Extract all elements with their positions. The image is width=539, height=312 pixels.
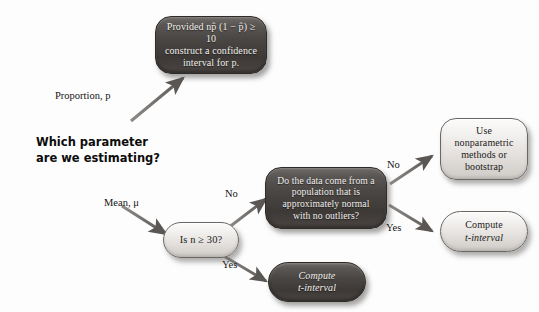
root-question-line1: Which parameter — [36, 135, 148, 149]
edge-label-normal-no: No — [387, 159, 400, 170]
node-proportion-line2: construct a confidence — [165, 45, 257, 56]
arrow-root-to-sample-size — [122, 206, 166, 234]
branch-label-proportion: Proportion, p — [55, 90, 110, 101]
node-nonparametric-line3: methods or — [461, 149, 507, 160]
node-t-bottom-line2: t-interval — [298, 282, 336, 293]
node-normality-line4: with no outliers? — [293, 210, 359, 221]
root-question: Which parameter are we estimating? — [36, 135, 186, 166]
edge-label-normal-yes: Yes — [386, 222, 401, 233]
node-normality-line3: approximately normal — [283, 198, 370, 209]
branch-label-mean: Mean, μ — [104, 197, 139, 208]
node-compute-t-interval-bottom[interactable]: Compute t-interval — [268, 262, 366, 302]
node-sample-size-text: Is n ≥ 30? — [164, 234, 238, 247]
node-sample-size-question[interactable]: Is n ≥ 30? — [163, 222, 239, 258]
node-proportion-line3: interval for p. — [183, 57, 239, 68]
node-proportion-line1: Provided np̂ (1 − p̂) ≥ 10 — [167, 21, 256, 44]
node-normality-question[interactable]: Do the data come from a population that … — [265, 167, 387, 229]
node-normality-line2: population that is — [292, 186, 360, 197]
node-t-right-line2: t-interval — [465, 232, 503, 243]
node-nonparametric-methods[interactable]: Use nonparametric methods or bootstrap — [440, 118, 528, 180]
node-t-bottom-line1: Compute — [299, 270, 336, 281]
node-proportion-confidence-interval[interactable]: Provided np̂ (1 − p̂) ≥ 10 construct a c… — [155, 16, 267, 74]
root-question-line2: are we estimating? — [36, 151, 160, 165]
node-compute-t-interval-right[interactable]: Compute t-interval — [440, 211, 528, 252]
edge-label-n30-yes: Yes — [222, 259, 237, 270]
node-nonparametric-line2: nonparametric — [454, 137, 513, 148]
arrow-n30-no — [228, 199, 266, 228]
arrow-root-to-proportion — [131, 78, 183, 121]
edge-label-n30-no: No — [225, 188, 238, 199]
node-t-right-line1: Compute — [465, 219, 502, 230]
node-nonparametric-line4: bootstrap — [465, 161, 503, 172]
node-normality-line1: Do the data come from a — [277, 175, 374, 186]
node-nonparametric-line1: Use — [476, 125, 492, 136]
flowchart-canvas: Which parameter are we estimating? Propo… — [0, 0, 539, 312]
